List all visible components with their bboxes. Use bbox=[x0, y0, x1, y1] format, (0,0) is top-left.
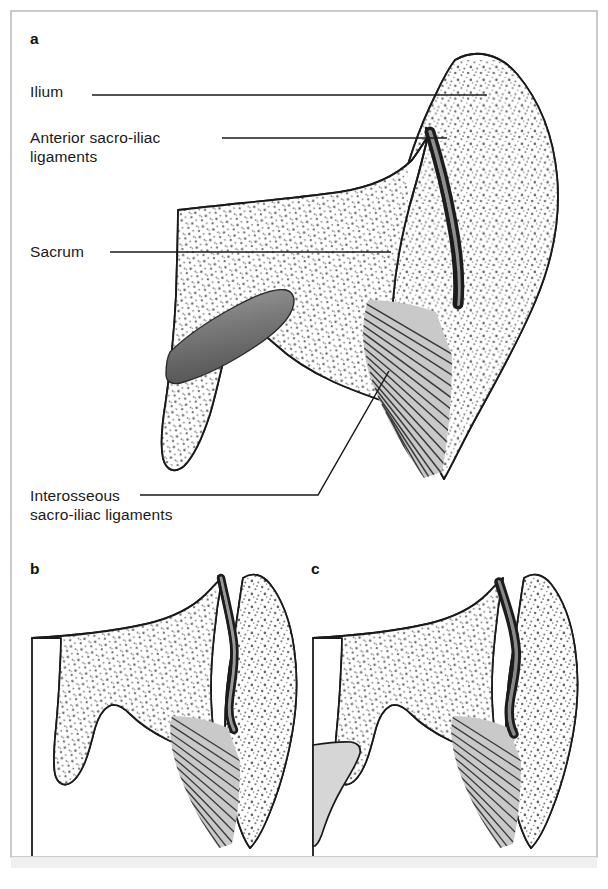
label-sacrum: Sacrum bbox=[30, 242, 84, 261]
label-anterior-line-2: ligaments bbox=[30, 148, 97, 165]
label-anterior-sacro-iliac-ligaments: Anterior sacro-iliacligaments bbox=[30, 128, 160, 166]
label-anterior-line-1: Anterior sacro-iliac bbox=[30, 129, 160, 146]
label-interosseous-line-1: Interosseous bbox=[30, 487, 120, 504]
label-interosseous-sacro-iliac-ligaments: Interosseoussacro-iliac ligaments bbox=[30, 486, 173, 524]
panel-letter-b: b bbox=[30, 560, 39, 578]
label-interosseous-line-2: sacro-iliac ligaments bbox=[30, 506, 173, 523]
label-ilium: Ilium bbox=[30, 82, 63, 101]
figure-bottom-band bbox=[11, 857, 597, 868]
panel-letter-c: c bbox=[311, 560, 320, 578]
panel-letter-a: a bbox=[30, 30, 39, 48]
